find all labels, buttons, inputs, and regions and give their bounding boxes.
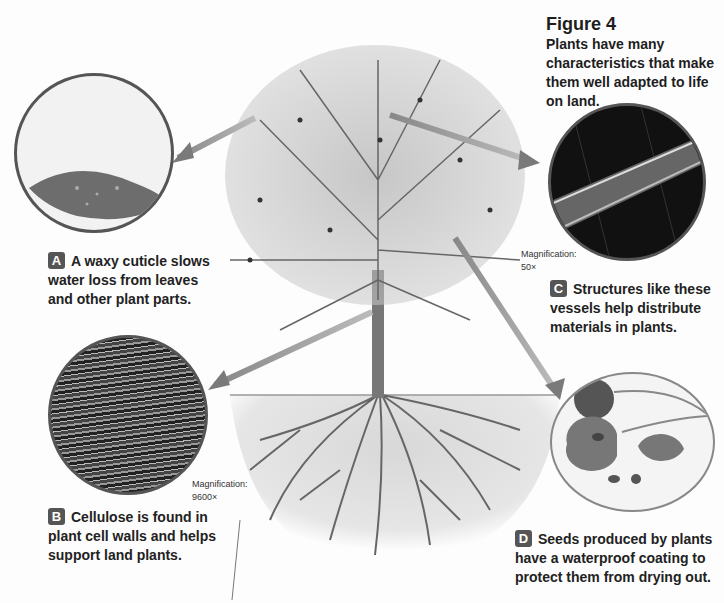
leaf-image — [17, 76, 174, 233]
callout-d-badge: D — [515, 530, 532, 547]
callout-a-caption: AA waxy cuticle slows water loss from le… — [48, 252, 223, 309]
callout-b-caption: BCellulose is found in plant cell walls … — [48, 508, 223, 565]
figure-title: Figure 4 — [546, 14, 616, 35]
leaf-image-circle — [14, 73, 174, 233]
callout-b-badge: B — [48, 508, 65, 525]
callout-c-badge: C — [550, 280, 567, 297]
figure-caption: Plants have many characteristics that ma… — [546, 35, 724, 111]
callout-b-text: Cellulose is found in plant cell walls a… — [48, 509, 216, 563]
vessel-image — [551, 106, 706, 261]
callout-d-caption: DSeeds produced by plants have a waterpr… — [515, 530, 720, 587]
callout-c-magnification: Magnification: 50× — [521, 248, 577, 274]
vessel-micrograph-circle — [548, 103, 706, 261]
cellulose-micrograph-circle — [48, 335, 208, 495]
callout-c-caption: CStructures like these vessels help dist… — [550, 280, 722, 337]
callout-a-badge: A — [48, 252, 65, 269]
cherries-image — [552, 374, 715, 512]
seeds-image-circle — [550, 372, 715, 512]
callout-d-text: Seeds produced by plants have a waterpro… — [515, 531, 712, 585]
callout-a-text: A waxy cuticle slows water loss from lea… — [48, 253, 210, 307]
callout-b-magnification: Magnification: 9600× — [192, 478, 248, 504]
callout-c-text: Structures like these vessels help distr… — [550, 281, 711, 335]
